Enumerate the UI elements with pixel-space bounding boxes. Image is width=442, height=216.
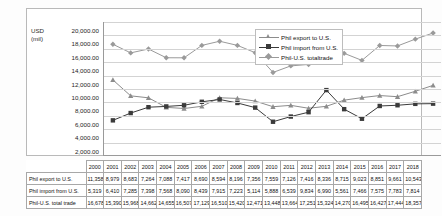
- data-point-marker: [235, 43, 240, 48]
- y-tick-label: 20,000.00: [71, 27, 99, 34]
- chart-container: USD (mil) 0.002,000.004,000.006,000.008,…: [26, 8, 422, 156]
- chart-legend: Phil export to U.S.Phil import from U.S.…: [255, 29, 343, 65]
- table-cell: 15,420: [227, 197, 245, 209]
- table-cell: 7,814: [404, 185, 422, 197]
- table-cell: 13,664: [280, 197, 298, 209]
- data-point-marker: [360, 117, 364, 121]
- table-column-header: 2016: [369, 161, 387, 173]
- data-point-marker: [164, 104, 168, 108]
- data-point-marker: [271, 120, 275, 124]
- table-row-header: Phil import from U.S.: [27, 185, 87, 197]
- legend-marker-icon: [259, 53, 279, 62]
- table-header-row: 2000200120022003200420052006200720082009…: [27, 161, 422, 173]
- table-column-header: 2012: [298, 161, 316, 173]
- table-cell: 8,690: [192, 173, 210, 185]
- table-column-header: 2002: [121, 161, 139, 173]
- legend-item[interactable]: Phil import from U.S.: [259, 42, 338, 52]
- table-cell: 11,358: [86, 173, 104, 185]
- table-head: 2000200120022003200420052006200720082009…: [27, 161, 422, 173]
- data-point-marker: [413, 36, 418, 41]
- table-cell: 9,834: [298, 185, 316, 197]
- y-axis-unit-line2: (mil): [31, 35, 57, 43]
- table-column-header: 2008: [227, 161, 245, 173]
- data-point-marker: [378, 104, 382, 108]
- table-cell: 8,979: [104, 173, 122, 185]
- table-body: Phil export to U.S.11,3588,9798,6837,264…: [27, 173, 422, 209]
- legend-label: Phil import from U.S.: [279, 44, 338, 51]
- table-cell: 7,575: [369, 185, 387, 197]
- table-corner-cell: [27, 161, 87, 173]
- table-cell: 16,510: [210, 197, 228, 209]
- y-tick-label: 8,000.00: [75, 107, 99, 114]
- data-point-marker: [111, 118, 115, 122]
- data-point-marker: [342, 107, 346, 111]
- table-cell: 8,851: [369, 173, 387, 185]
- y-tick-label: 16,000.00: [71, 53, 99, 60]
- table-cell: 15,968: [121, 197, 139, 209]
- table-column-header: 2015: [351, 161, 369, 173]
- data-point-marker: [182, 103, 186, 107]
- data-point-marker: [146, 105, 150, 109]
- legend-marker-icon: [259, 33, 279, 42]
- table-cell: 16,495: [351, 197, 369, 209]
- data-point-marker: [128, 111, 132, 115]
- table-cell: 17,129: [192, 197, 210, 209]
- table-row-header: Phil export to U.S.: [27, 173, 87, 185]
- table-column-header: 2011: [280, 161, 298, 173]
- data-point-marker: [306, 110, 310, 114]
- table-cell: 8,090: [174, 185, 192, 197]
- table-cell: 8,439: [192, 185, 210, 197]
- table-cell: 15,324: [316, 197, 334, 209]
- data-table: 2000200120022003200420052006200720082009…: [26, 160, 422, 209]
- data-point-marker: [395, 103, 399, 107]
- table-cell: 7,915: [210, 185, 228, 197]
- gridline: [104, 22, 441, 23]
- table-cell: 17,251: [298, 197, 316, 209]
- table-cell: 14,270: [333, 197, 351, 209]
- legend-label: Phil export to U.S.: [279, 34, 331, 41]
- y-tick-label: 10,000.00: [71, 94, 99, 101]
- table-column-header: 2004: [157, 161, 175, 173]
- table-cell: 16,427: [369, 197, 387, 209]
- y-tick-label: 14,000.00: [71, 67, 99, 74]
- table-cell: 8,594: [210, 173, 228, 185]
- data-table-wrapper: 2000200120022003200420052006200720082009…: [26, 160, 422, 209]
- y-tick-label: 2,000.00: [75, 147, 99, 154]
- table-cell: 8,336: [316, 173, 334, 185]
- legend-label: Phil-U.S. totaltrade: [279, 54, 333, 61]
- legend-item[interactable]: Phil-U.S. totaltrade: [259, 52, 338, 62]
- table-row-header: Phil-U.S. total trade: [27, 197, 87, 209]
- data-point-marker: [128, 50, 133, 55]
- table-cell: 7,568: [157, 185, 175, 197]
- y-axis-unit-label: USD (mil): [31, 27, 57, 43]
- table-cell: 7,783: [386, 185, 404, 197]
- data-point-marker: [253, 105, 257, 109]
- table-cell: 8,715: [333, 173, 351, 185]
- y-tick-label: 18,000.00: [71, 40, 99, 47]
- table-cell: 5,888: [263, 185, 281, 197]
- table-cell: 7,417: [174, 173, 192, 185]
- table-cell: 7,466: [351, 185, 369, 197]
- table-cell: 9,023: [351, 173, 369, 185]
- table-cell: 10,543: [404, 173, 422, 185]
- table-cell: 14,662: [139, 197, 157, 209]
- table-row: Phil import from U.S.5,3196,4107,2857,39…: [27, 185, 422, 197]
- y-tick-label: 6,000.00: [75, 120, 99, 127]
- data-point-marker: [431, 83, 436, 88]
- table-column-header: 2001: [104, 161, 122, 173]
- y-axis-tick-labels: 0.002,000.004,000.006,000.008,000.0010,0…: [57, 17, 101, 165]
- gridline: [104, 76, 441, 77]
- table-column-header: 2009: [245, 161, 263, 173]
- data-point-marker: [164, 55, 169, 60]
- y-tick-label: 12,000.00: [71, 80, 99, 87]
- table-cell: 7,264: [139, 173, 157, 185]
- table-column-header: 2013: [316, 161, 334, 173]
- table-cell: 16,678: [86, 197, 104, 209]
- gridline: [104, 102, 441, 103]
- table-cell: 7,356: [245, 173, 263, 185]
- table-column-header: 2000: [86, 161, 104, 173]
- table-cell: 8,683: [121, 173, 139, 185]
- gridline: [104, 116, 441, 117]
- legend-item[interactable]: Phil export to U.S.: [259, 32, 338, 42]
- table-cell: 15,390: [104, 197, 122, 209]
